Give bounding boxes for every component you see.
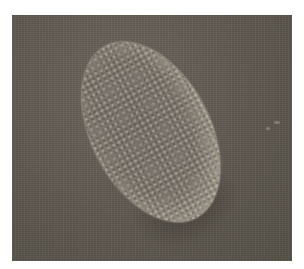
debris-speck xyxy=(266,127,270,130)
debris-speck xyxy=(274,121,280,124)
micrograph-image xyxy=(12,15,292,261)
